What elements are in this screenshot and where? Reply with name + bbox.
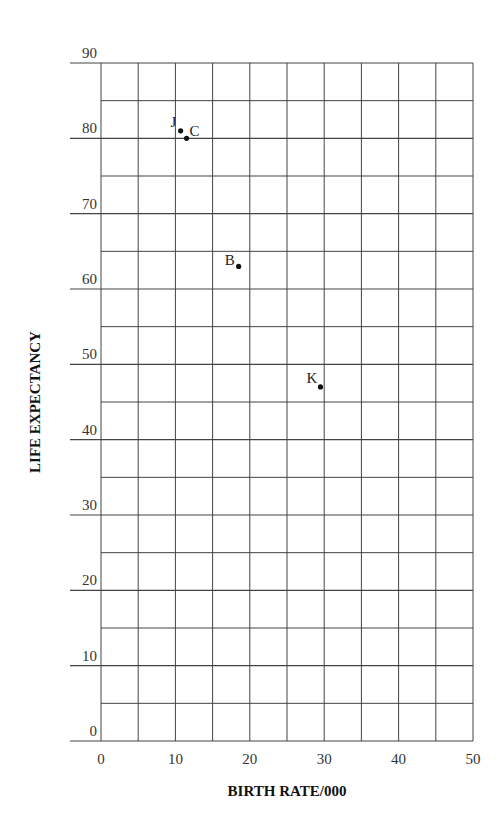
- data-point-j: [178, 128, 183, 133]
- x-axis-title: BIRTH RATE/000: [228, 783, 347, 799]
- point-label-k: K: [306, 370, 317, 386]
- y-tick-label: 20: [82, 572, 97, 588]
- y-tick-label: 50: [82, 346, 97, 362]
- y-axis-title: LIFE EXPECTANCY: [27, 331, 43, 473]
- y-tick-label: 0: [90, 723, 98, 739]
- y-tick-label: 30: [82, 497, 97, 513]
- x-tick-label: 40: [391, 751, 406, 767]
- y-tick-label: 70: [82, 196, 97, 212]
- point-label-c: C: [190, 123, 200, 139]
- grid-lines: [70, 63, 473, 741]
- data-point-k: [318, 384, 323, 389]
- x-tick-label: 0: [97, 751, 105, 767]
- point-label-b: B: [225, 252, 235, 268]
- x-tick-label: 30: [317, 751, 332, 767]
- x-tick-label: 50: [466, 751, 481, 767]
- y-tick-label: 10: [82, 648, 97, 664]
- y-tick-label: 90: [82, 45, 97, 61]
- scatter-chart: 0102030405060708090 01020304050 JCBK BIR…: [0, 0, 502, 832]
- x-tick-label: 10: [168, 751, 183, 767]
- x-tick-label: 20: [242, 751, 257, 767]
- y-axis-tick-labels: 0102030405060708090: [82, 45, 97, 739]
- point-label-j: J: [171, 114, 177, 130]
- y-tick-label: 60: [82, 271, 97, 287]
- y-tick-label: 40: [82, 422, 97, 438]
- data-point-b: [236, 264, 241, 269]
- data-point-c: [184, 136, 189, 141]
- y-tick-label: 80: [82, 120, 97, 136]
- x-axis-tick-labels: 01020304050: [97, 751, 480, 767]
